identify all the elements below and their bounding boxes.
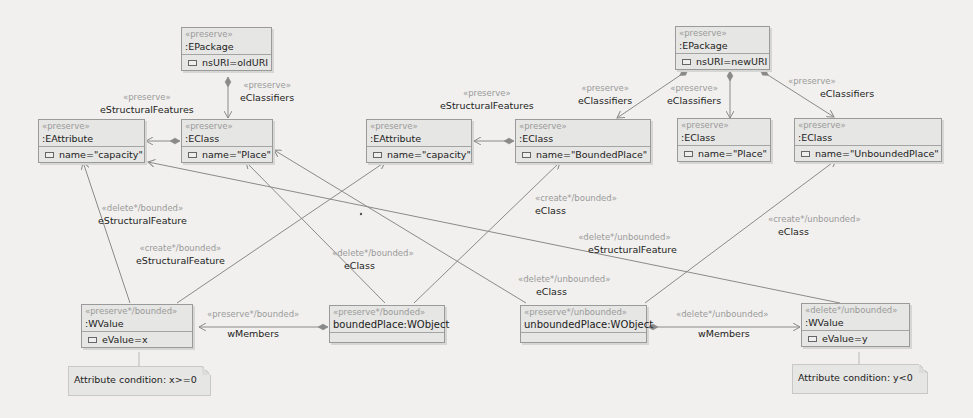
stereotype: «preserve»: [681, 120, 767, 131]
stereotype: «preserve»: [370, 121, 468, 132]
attribute-value: nsURI=oldURI: [202, 57, 268, 68]
attribute-value: name="capacity": [387, 149, 471, 160]
edge-label-new-eclassifiers-2: «preserve»eClassifiers: [667, 83, 721, 107]
stereotype: «preserve*/bounded»: [85, 306, 189, 317]
attribute-condition-note-x: Attribute condition: x>=0: [68, 366, 211, 396]
edge-cre-bounded-sf: [177, 162, 385, 303]
node-type: boundedPlace:WObject: [333, 318, 441, 331]
attribute-value: nsURI=newURI: [696, 56, 767, 67]
attribute-icon: [373, 152, 382, 158]
edge-label-del-unbounded-sf: «delete*/unbounded»eStructuralFeature: [572, 232, 677, 256]
epackage-old-node[interactable]: «preserve»:EPackage nsURI=oldURI: [181, 27, 272, 71]
node-type: :EClass: [681, 131, 767, 144]
attribute-icon: [45, 152, 54, 158]
attribute-icon: [88, 337, 97, 343]
edge-del-bounded-sf: [83, 162, 130, 303]
edge-del-unbounded-eclass: [274, 150, 526, 303]
edge-label-del-unbounded-eclass: «delete*/unbounded»eClass: [518, 274, 610, 298]
attribute-value: eValue=y: [822, 333, 868, 344]
node-type: :EPackage: [679, 39, 766, 52]
attribute-icon: [801, 151, 810, 157]
attribute-value: name="Place": [202, 149, 271, 160]
eattribute-old-node[interactable]: «preserve»:EAttribute name="capacity": [38, 119, 145, 163]
node-type: :EClass: [519, 132, 647, 145]
stereotype: «preserve*/bounded»: [333, 307, 441, 318]
stereotype: «delete*/unbounded»: [805, 305, 906, 316]
edge-label-unbounded-wmembers: «delete*/unbounded»wMembers: [676, 309, 768, 340]
attribute-icon: [682, 59, 691, 65]
eclass-unboundedplace-node[interactable]: «preserve»:EClass name="UnboundedPlace": [794, 118, 942, 162]
node-type: :EClass: [798, 131, 938, 144]
stereotype: «preserve*/unbounded»: [524, 307, 643, 318]
wvalue-y-node[interactable]: «delete*/unbounded»:WValue eValue=y: [801, 303, 910, 347]
stereotype: «preserve»: [42, 121, 141, 132]
edge-label-bounded-wmembers: «preserve*/bounded»wMembers: [207, 309, 299, 340]
stereotype: «preserve»: [185, 121, 269, 132]
edge-label-cre-unbounded-eclass: «create*/unbounded»eClass: [768, 214, 861, 238]
attribute-icon: [188, 60, 197, 66]
eclass-place-new-node[interactable]: «preserve»:EClass name="Place": [677, 118, 771, 162]
edge-label-new-eclassifiers-1: «preserve»eClassifiers: [578, 83, 632, 107]
stereotype: «preserve»: [519, 121, 647, 132]
edge-label-cre-bounded-eclass: «create*/bounded»eClass: [535, 193, 617, 217]
edge-del-bounded-eclass: [246, 162, 385, 303]
edge-label-new-estructuralfeatures: «preserve»eStructuralFeatures: [440, 88, 534, 112]
edge-del-unbounded-sf: [148, 162, 840, 303]
node-type: :EPackage: [185, 40, 268, 53]
edge-label-cre-bounded-sf: «create*/bounded»eStructuralFeature: [136, 243, 225, 267]
edge-label-old-eclassifiers: «preserve»eClassifiers: [240, 80, 294, 104]
attribute-value: name="UnboundedPlace": [815, 148, 939, 159]
stereotype: «preserve»: [798, 120, 938, 131]
eattribute-new-node[interactable]: «preserve»:EAttribute name="capacity": [366, 119, 472, 163]
node-type: :EClass: [185, 132, 269, 145]
node-type: :WValue: [85, 317, 189, 330]
attribute-value: name="Place": [698, 148, 767, 159]
edge-label-new-eclassifiers-3: «preserve»eClassifiers: [788, 76, 874, 100]
attribute-icon: [808, 336, 817, 342]
edge-label-del-bounded-eclass: «delete*/bounded»eClass: [332, 248, 414, 272]
attribute-value: eValue=x: [102, 334, 148, 345]
eclass-place-old-node[interactable]: «preserve»:EClass name="Place": [181, 119, 273, 163]
attribute-value: name="BoundedPlace": [536, 149, 647, 160]
stereotype: «preserve»: [185, 29, 268, 40]
eclass-boundedplace-node[interactable]: «preserve»:EClass name="BoundedPlace": [515, 119, 651, 163]
node-type: :WValue: [805, 316, 906, 329]
attribute-condition-note-y: Attribute condition: y<0: [792, 364, 928, 394]
wvalue-x-node[interactable]: «preserve*/bounded»:WValue eValue=x: [81, 304, 193, 348]
attribute-icon: [188, 152, 197, 158]
node-type: unboundedPlace:WObject: [524, 318, 643, 331]
node-type: :EAttribute: [370, 132, 468, 145]
attribute-icon: [522, 152, 531, 158]
boundedplace-wobject-node[interactable]: «preserve*/bounded»boundedPlace:WObject: [329, 305, 445, 343]
epackage-new-node[interactable]: «preserve»:EPackage nsURI=newURI: [675, 26, 770, 70]
attribute-icon: [684, 151, 693, 157]
edge-label-del-bounded-sf: «delete*/bounded»eStructuralFeature: [98, 203, 187, 227]
node-type: :EAttribute: [42, 132, 141, 145]
stereotype: «preserve»: [679, 28, 766, 39]
edge-label-old-estructuralfeatures: «preserve»eStructuralFeatures: [100, 92, 194, 116]
attribute-value: name="capacity": [59, 149, 143, 160]
unboundedplace-wobject-node[interactable]: «preserve*/unbounded»unboundedPlace:WObj…: [520, 305, 647, 343]
